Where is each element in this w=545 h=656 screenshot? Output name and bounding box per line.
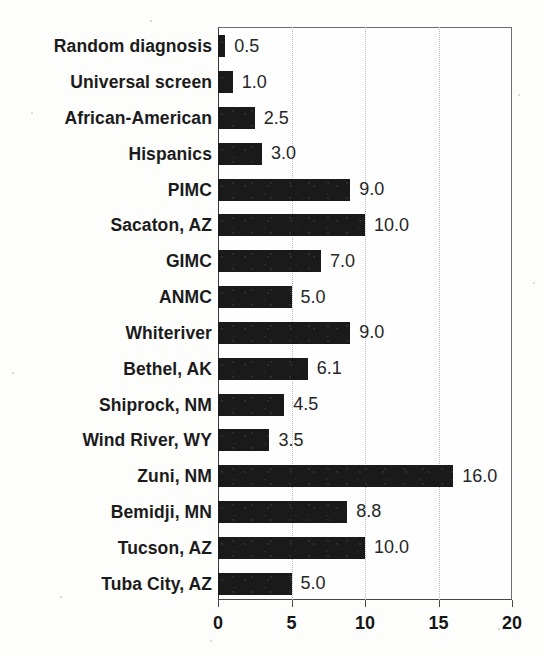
value-label: 1.0 (242, 72, 267, 93)
value-label: 7.0 (330, 251, 355, 272)
bar (218, 322, 350, 344)
x-tick-label: 15 (417, 613, 461, 634)
category-label: ANMC (0, 287, 212, 308)
x-tick-label: 5 (270, 613, 314, 634)
category-label: PIMC (0, 180, 212, 201)
speckle (60, 596, 62, 598)
bar (218, 429, 269, 451)
value-label: 8.8 (356, 501, 381, 522)
category-label: Tuba City, AZ (0, 574, 212, 595)
speckle (210, 640, 212, 642)
category-label: Bemidji, MN (0, 502, 212, 523)
value-label: 10.0 (374, 215, 409, 236)
bar (218, 358, 308, 380)
x-tick-label: 0 (196, 613, 240, 634)
bar (218, 250, 321, 272)
x-tick-mark-0 (218, 600, 219, 607)
value-label: 3.5 (278, 430, 303, 451)
x-tick-mark-15 (439, 600, 440, 607)
category-label: Wind River, WY (0, 430, 212, 451)
bar (218, 214, 365, 236)
bar-chart: 0.51.02.53.09.010.07.05.09.06.14.53.516.… (0, 0, 545, 656)
x-tick-label: 20 (490, 613, 534, 634)
value-label: 2.5 (264, 108, 289, 129)
category-label: Universal screen (0, 72, 212, 93)
category-label: GIMC (0, 251, 212, 272)
category-label: Whiteriver (0, 323, 212, 344)
x-tick-label: 10 (343, 613, 387, 634)
x-tick-mark-20 (512, 600, 513, 607)
category-label: Shiprock, NM (0, 395, 212, 416)
category-label: Random diagnosis (0, 36, 212, 57)
bar (218, 71, 233, 93)
value-label: 4.5 (293, 394, 318, 415)
bar (218, 573, 292, 595)
speckle (533, 282, 535, 284)
bar (218, 286, 292, 308)
x-tick-mark-5 (292, 600, 293, 607)
value-label: 0.5 (234, 36, 259, 57)
bar (218, 179, 350, 201)
speckle (498, 628, 500, 630)
category-label: Tucson, AZ (0, 538, 212, 559)
value-label: 5.0 (301, 287, 326, 308)
value-label: 9.0 (359, 179, 384, 200)
speckle (518, 94, 520, 96)
x-tick-mark-10 (365, 600, 366, 607)
speckle (150, 20, 152, 22)
value-label: 6.1 (317, 358, 342, 379)
bar (218, 394, 284, 416)
category-label: Zuni, NM (0, 466, 212, 487)
gridline-15 (439, 27, 441, 600)
value-label: 10.0 (374, 537, 409, 558)
bar (218, 107, 255, 129)
value-label: 16.0 (462, 466, 497, 487)
category-label: Bethel, AK (0, 359, 212, 380)
bar (218, 35, 225, 57)
speckle (12, 372, 14, 374)
bar (218, 537, 365, 559)
bar (218, 501, 347, 523)
value-label: 5.0 (301, 573, 326, 594)
speckle (31, 112, 33, 114)
value-label: 3.0 (271, 143, 296, 164)
bar (218, 143, 262, 165)
value-label: 9.0 (359, 322, 384, 343)
category-label: Hispanics (0, 144, 212, 165)
category-label: Sacaton, AZ (0, 215, 212, 236)
bar (218, 465, 453, 487)
